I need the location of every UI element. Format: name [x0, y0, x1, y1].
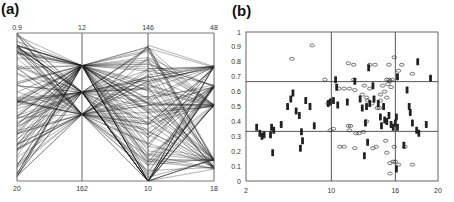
filled-marker [379, 113, 382, 120]
filled-marker [395, 113, 398, 120]
filled-marker [416, 58, 419, 65]
open-marker [377, 106, 382, 109]
filled-marker [383, 116, 386, 123]
filled-marker [263, 131, 266, 138]
open-marker [362, 84, 367, 87]
filled-marker [359, 96, 362, 103]
open-marker [353, 89, 358, 92]
open-marker [346, 62, 351, 65]
open-marker [392, 145, 397, 148]
open-marker [348, 124, 353, 127]
filled-marker [366, 139, 369, 146]
filled-marker [346, 99, 349, 106]
filled-marker [270, 124, 273, 131]
x-tick-label: 2 [244, 187, 248, 194]
y-tick-label: 1 [237, 29, 241, 36]
filled-diamond-series [255, 58, 432, 172]
open-marker [389, 86, 394, 89]
open-marker [388, 80, 393, 83]
open-circle-series [290, 44, 415, 175]
filled-marker [392, 124, 395, 131]
open-marker [353, 147, 358, 150]
open-marker [385, 151, 390, 154]
filled-marker [299, 145, 302, 152]
open-marker [370, 102, 375, 105]
y-tick-label: 0.6 [231, 88, 241, 95]
open-marker [357, 132, 362, 135]
filled-marker [409, 109, 412, 116]
open-marker [383, 139, 388, 142]
open-marker [385, 78, 390, 81]
open-marker [393, 160, 398, 163]
open-marker [396, 163, 401, 166]
filled-marker [361, 104, 364, 111]
open-marker [396, 69, 401, 72]
filled-marker [417, 130, 420, 137]
open-marker [367, 87, 372, 90]
filled-marker [334, 76, 337, 83]
y-tick-label: 0.8 [231, 58, 241, 65]
filled-marker [406, 87, 409, 94]
filled-marker [295, 107, 298, 114]
filled-marker [390, 121, 393, 128]
filled-marker [327, 100, 330, 107]
open-marker [410, 163, 415, 166]
filled-marker [272, 127, 275, 134]
x-tick-label: 20 [434, 187, 442, 194]
open-marker [342, 145, 347, 148]
open-marker [387, 63, 392, 66]
filled-marker [309, 103, 312, 110]
plot-frame [246, 32, 438, 181]
filled-marker [289, 96, 292, 103]
filled-marker [373, 96, 376, 103]
axis-4-top-label: 48 [210, 24, 218, 31]
y-tick-label: 0.5 [231, 103, 241, 110]
filled-marker [269, 131, 272, 138]
filled-marker [367, 64, 370, 71]
filled-marker [365, 103, 368, 110]
filled-marker [380, 122, 383, 129]
open-marker [387, 78, 392, 81]
open-marker [380, 84, 385, 87]
open-marker [342, 87, 347, 90]
open-marker [388, 162, 393, 165]
open-marker [378, 93, 383, 96]
open-marker [392, 56, 397, 59]
open-marker [367, 63, 372, 66]
open-marker [371, 147, 376, 150]
axis-1-top-label: 0.9 [12, 24, 22, 31]
y-tick-label: 0.3 [231, 133, 241, 140]
filled-marker [292, 90, 295, 97]
open-marker [365, 99, 370, 102]
open-marker [337, 87, 342, 90]
filled-marker [300, 128, 303, 135]
filled-marker [408, 103, 411, 110]
filled-marker [388, 112, 391, 119]
y-tick-label: 0.1 [231, 163, 241, 170]
x-tick-label: 10 [327, 187, 335, 194]
filled-marker [363, 152, 366, 159]
open-marker [331, 127, 336, 130]
y-tick-label: 0.9 [231, 43, 241, 50]
axis-3-bottom-label: 10 [144, 185, 152, 192]
filled-marker [425, 121, 428, 128]
open-marker [323, 78, 328, 81]
open-marker [347, 87, 352, 90]
axis-2-bottom-label: 162 [76, 185, 88, 192]
filled-marker [353, 78, 356, 85]
open-marker [364, 96, 369, 99]
y-tick-label: 0 [237, 178, 241, 185]
open-marker [338, 145, 343, 148]
open-marker [378, 99, 383, 102]
filled-marker [364, 119, 367, 126]
filled-marker [368, 100, 371, 107]
open-marker [391, 160, 396, 163]
axis-4-bottom-label: 18 [210, 185, 218, 192]
y-tick-label: 0.7 [231, 73, 241, 80]
open-marker [410, 72, 415, 75]
filled-marker [336, 102, 339, 109]
filled-marker [395, 166, 398, 173]
filled-marker [385, 118, 388, 125]
filled-marker [372, 82, 375, 89]
filled-marker [271, 149, 274, 156]
